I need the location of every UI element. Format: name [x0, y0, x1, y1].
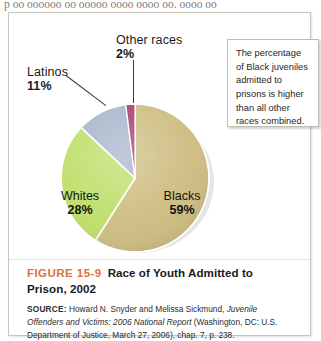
caption-title-line: FIGURE 15-9Race of Youth Admitted to Pri… — [27, 265, 295, 297]
slice-name-other-races: Other races — [116, 33, 182, 47]
figure-number: FIGURE 15-9 — [27, 266, 102, 279]
slice-label-latinos: Latinos 11% — [27, 65, 68, 94]
pie-chart: Other races 2% Latinos 11% — [9, 13, 310, 259]
annotation-callout: The percentage of Black juveniles admitt… — [227, 39, 319, 127]
page-text-bleed: p oo oooooo oo ooooo oooo oooo oo. oooo … — [4, 0, 317, 12]
slice-value-whites: 28% — [50, 203, 110, 217]
slice-label-whites: Whites 28% — [50, 189, 110, 217]
source-text-part1: Howard N. Snyder and Melissa Sickmund, — [67, 304, 227, 314]
slice-value-latinos: 11% — [27, 79, 68, 93]
pie-slices — [61, 104, 209, 252]
pie-graphic — [45, 101, 227, 255]
figure-source: SOURCE: Howard N. Snyder and Melissa Sic… — [27, 303, 295, 341]
slice-value-blacks: 59% — [150, 203, 214, 217]
slice-name-blacks: Blacks — [150, 189, 214, 203]
slice-value-other-races: 2% — [116, 47, 182, 61]
figure-container: Other races 2% Latinos 11% — [8, 12, 311, 336]
figure-caption: FIGURE 15-9Race of Youth Admitted to Pri… — [27, 265, 295, 341]
leader-line-other-races — [133, 60, 134, 103]
slice-name-whites: Whites — [50, 189, 110, 203]
slice-label-other-races: Other races 2% — [116, 33, 182, 62]
source-label: SOURCE: — [27, 304, 67, 314]
pie-svg — [45, 101, 227, 255]
slice-name-latinos: Latinos — [27, 65, 68, 79]
pie-shading-overlay — [61, 104, 209, 252]
slice-label-blacks: Blacks 59% — [150, 189, 214, 217]
caption-divider — [9, 259, 310, 260]
